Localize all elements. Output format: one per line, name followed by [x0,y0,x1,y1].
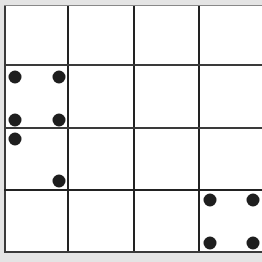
board-cell-r1-c3[interactable] [200,66,262,127]
board-cell-r0-c0[interactable] [6,6,67,64]
dot-marker-icon [9,71,22,84]
board-cell-r1-c1[interactable] [69,66,133,127]
board-cell-r2-c2[interactable] [135,129,198,189]
board-cell-r3-c0[interactable] [6,191,67,251]
board-cell-r2-c3[interactable] [200,129,262,189]
board-cell-r0-c1[interactable] [69,6,133,64]
board-cell-r2-c1[interactable] [69,129,133,189]
grid-line-horizontal-4 [4,251,262,253]
dot-marker-icon [204,237,217,250]
dot-marker-icon [53,175,66,188]
board-cell-r3-c2[interactable] [135,191,198,251]
board-cell-r1-c2[interactable] [135,66,198,127]
board-cell-r3-c1[interactable] [69,191,133,251]
dot-marker-icon [247,237,260,250]
board-cell-r0-c2[interactable] [135,6,198,64]
board-cell-r0-c3[interactable] [200,6,262,64]
dot-marker-icon [53,71,66,84]
dot-marker-icon [9,114,22,127]
dot-marker-icon [204,194,217,207]
dot-marker-icon [9,133,22,146]
dot-marker-icon [247,194,260,207]
dot-marker-icon [53,114,66,127]
